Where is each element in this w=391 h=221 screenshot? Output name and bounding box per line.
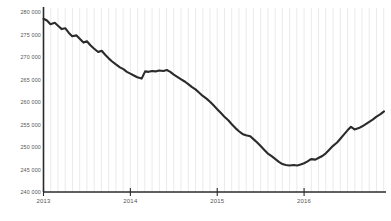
y-axis-tick-label: 245 000 — [1, 167, 41, 173]
y-axis-tick-label: 255 000 — [1, 122, 41, 128]
y-axis-tick-label: 275 000 — [1, 32, 41, 38]
chart-axes — [44, 7, 387, 192]
y-axis-tick-label: 280 000 — [1, 9, 41, 15]
y-axis-tick-label: 265 000 — [1, 77, 41, 83]
y-axis-tick-label: 250 000 — [1, 144, 41, 150]
line-chart: 280 000275 000270 000265 000260 000255 0… — [0, 0, 391, 221]
y-axis-tick-label: 260 000 — [1, 99, 41, 105]
x-axis-tick-label: 2016 — [297, 198, 311, 204]
x-axis-tick-label: 2013 — [36, 198, 50, 204]
x-axis-tick-label: 2015 — [210, 198, 224, 204]
x-axis-tick-label: 2014 — [123, 198, 137, 204]
chart-plot-area — [0, 0, 391, 221]
y-axis-tick-label: 240 000 — [1, 189, 41, 195]
vertical-gridlines — [51, 8, 384, 192]
y-axis-tick-label: 270 000 — [1, 54, 41, 60]
